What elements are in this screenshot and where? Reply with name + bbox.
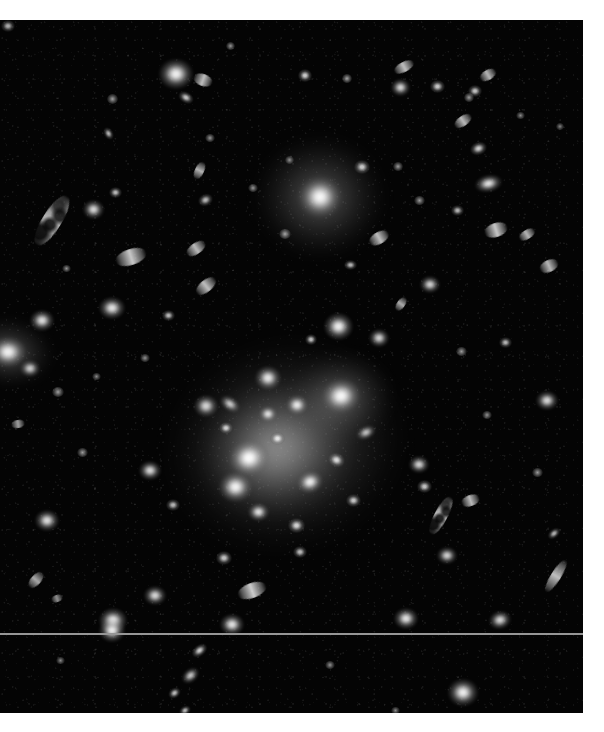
galaxy-point-24: [342, 74, 352, 83]
sky-noise-layer: [0, 20, 583, 713]
galaxy-compact-62: [139, 461, 161, 480]
scanline-artifact: [0, 633, 583, 635]
sky-noise-fine-layer: [0, 20, 583, 713]
cluster-core-inner-halo: [192, 374, 358, 526]
galaxy-point-105: [516, 112, 525, 119]
galaxy-point-61: [77, 448, 88, 457]
galaxy-compact-93: [420, 276, 440, 293]
galaxy-elliptical-5: [294, 467, 326, 497]
galaxy-compact-58: [20, 360, 40, 377]
galaxy-point-48: [205, 134, 215, 142]
galaxy-edge-on-spiral-86: [542, 557, 571, 595]
galaxy-point-98: [285, 156, 294, 164]
galaxy-compact-83: [409, 456, 429, 473]
galaxy-compact-7: [270, 432, 285, 445]
galaxy-compact-97: [354, 160, 370, 174]
galaxy-lenticular-74: [189, 640, 209, 659]
galaxy-lenticular-87: [546, 525, 563, 541]
galaxy-elliptical-78: [448, 679, 478, 706]
galaxy-compact-18: [369, 329, 389, 347]
galaxy-edge-on-spiral-27: [392, 57, 416, 76]
galaxy-point-45: [414, 196, 425, 205]
galaxy-point-96: [248, 184, 258, 192]
galaxy-elliptical-4: [286, 395, 308, 415]
galaxy-lenticular-14: [354, 422, 378, 442]
galaxy-lenticular-75: [179, 664, 202, 686]
galaxy-edge-on-spiral-65: [26, 569, 47, 591]
galaxy-compact-6: [259, 406, 277, 422]
galaxy-edge-on-spiral-50: [184, 237, 208, 259]
galaxy-compact-85: [437, 547, 457, 564]
galaxy-elliptical-79: [394, 608, 418, 629]
galaxy-lenticular-43: [537, 256, 560, 275]
galaxy-lenticular-36: [101, 125, 115, 141]
galaxy-point-100: [140, 354, 150, 362]
galaxy-compact-44: [451, 205, 464, 216]
galaxy-edge-on-spiral-29: [478, 66, 499, 84]
galaxy-elliptical-57: [0, 337, 26, 367]
galaxy-edge-on-spiral-51: [193, 274, 219, 299]
galaxy-compact-63: [166, 499, 180, 511]
galaxy-compact-107: [1, 20, 15, 32]
left-edge-galaxy-halo: [0, 314, 55, 389]
galaxy-compact-67: [144, 586, 166, 605]
galaxy-lenticular-21: [192, 71, 215, 89]
galaxy-elliptical-3: [219, 472, 252, 502]
galaxy-compact-11: [219, 422, 233, 434]
galaxy-compact-28: [468, 85, 482, 97]
galaxy-elliptical-68: [99, 608, 127, 633]
galaxy-point-91: [456, 347, 467, 356]
galaxy-compact-26: [430, 80, 445, 93]
galaxy-lenticular-49: [113, 244, 148, 269]
galaxy-point-92: [482, 411, 492, 419]
galaxy-cd-galaxy-0: [299, 177, 341, 217]
galaxy-elliptical-73: [99, 619, 125, 642]
galaxy-elliptical-55: [99, 297, 125, 319]
galaxy-cluster-plate: [0, 20, 583, 713]
galaxy-lenticular-60: [10, 419, 25, 429]
galaxy-compact-10: [288, 518, 305, 533]
galaxy-elliptical-72: [220, 614, 244, 635]
galaxy-point-88: [532, 468, 543, 477]
galaxy-point-106: [556, 123, 564, 130]
galaxy-lenticular-41: [482, 220, 509, 241]
ne-core-halo: [283, 347, 396, 449]
plate-vignette: [0, 20, 583, 713]
galaxy-compact-89: [536, 391, 558, 410]
galaxy-lenticular-66: [50, 593, 64, 604]
galaxy-compact-9: [248, 503, 269, 521]
galaxy-elliptical-64: [35, 510, 59, 531]
galaxy-point-37: [464, 93, 474, 102]
galaxy-compact-15: [194, 395, 218, 417]
galaxy-lenticular-84: [459, 492, 481, 509]
galaxy-elliptical-17: [324, 313, 353, 340]
galaxy-compact-19: [305, 334, 317, 345]
galaxy-clumpy-edge-on-spiral-32: [29, 190, 76, 249]
galaxy-compact-71: [293, 546, 307, 558]
galaxy-compact-70: [216, 551, 232, 565]
cd-galaxy-halo: [260, 141, 380, 253]
galaxy-edge-on-spiral-53: [191, 159, 207, 180]
galaxy-compact-8: [325, 450, 346, 470]
galaxy-point-103: [391, 707, 400, 714]
galaxy-compact-90: [499, 337, 512, 348]
galaxy-edge-on-spiral-94: [393, 295, 409, 313]
galaxy-point-102: [325, 661, 335, 669]
galaxy-compact-12: [346, 494, 361, 507]
galaxy-lenticular-80: [487, 608, 513, 631]
galaxy-lenticular-69: [235, 578, 268, 602]
galaxy-lenticular-77: [178, 703, 193, 713]
galaxy-compact-23: [298, 69, 312, 82]
galaxy-point-101: [92, 373, 101, 380]
galaxy-compact-82: [417, 480, 432, 493]
cluster-core-halo: [154, 324, 416, 566]
galaxy-lenticular-40: [473, 172, 503, 194]
galaxy-point-47: [393, 162, 403, 171]
astronomy-figure: [0, 0, 604, 732]
galaxy-compact-34: [109, 187, 122, 198]
galaxy-lenticular-22: [176, 88, 195, 106]
galaxy-edge-on-spiral-38: [452, 111, 474, 131]
galaxy-elliptical-56: [30, 310, 54, 331]
galaxy-clumpy-edge-on-spiral-81: [425, 493, 456, 536]
galaxy-elliptical-16: [255, 366, 281, 390]
